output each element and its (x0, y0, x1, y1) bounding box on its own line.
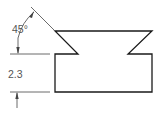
height-arrow-icon (15, 92, 18, 99)
height-dimension-label: 2.3 (8, 68, 23, 80)
angle-dimension-label: 45° (12, 23, 28, 35)
drawing-canvas: 45° 2.3 (0, 0, 160, 125)
angle-arrow-bottom-icon (16, 47, 19, 54)
dovetail-outline (55, 31, 152, 92)
dovetail-drawing: 45° 2.3 (0, 0, 160, 125)
angle-arrow-top-icon (29, 11, 34, 18)
angle-extension-line (31, 7, 54, 30)
